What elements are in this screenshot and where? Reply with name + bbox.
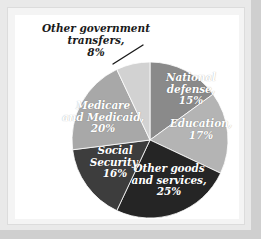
pie-slice-group (72, 62, 228, 218)
figure-container: National defense, 15% Education, 17% Oth… (0, 0, 261, 239)
pie-chart: National defense, 15% Education, 17% Oth… (0, 0, 261, 239)
pie-slice-label-other-government-transfers: Other government transfers, 8% (18, 22, 174, 58)
